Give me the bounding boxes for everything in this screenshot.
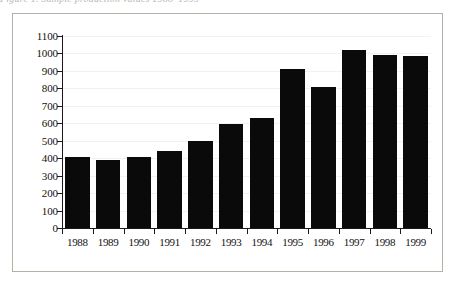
x-axis-tick-label: 1994 xyxy=(247,235,278,251)
bar-slot xyxy=(247,36,278,228)
y-axis-tick-label: 600 xyxy=(20,118,58,129)
bar xyxy=(250,118,274,228)
y-axis-tick-mark xyxy=(57,228,62,229)
y-axis-tick-label: 1100 xyxy=(20,31,58,42)
y-axis-tick-label: 900 xyxy=(20,65,58,76)
x-axis-tick-label: 1997 xyxy=(339,235,370,251)
y-axis-tick-mark xyxy=(57,88,62,89)
x-axis-tick-label: 1999 xyxy=(400,235,431,251)
x-axis-tick-label: 1988 xyxy=(62,235,93,251)
y-axis-tick-mark xyxy=(57,176,62,177)
bar-slot xyxy=(216,36,247,228)
x-axis-tick-mark xyxy=(93,229,94,234)
y-axis-tick-mark xyxy=(57,141,62,142)
bar xyxy=(311,87,335,228)
y-axis-tick-mark xyxy=(57,123,62,124)
bar-slot xyxy=(339,36,370,228)
y-axis-tick-labels: 010020030040050060070080090010001100 xyxy=(20,36,58,228)
x-axis-tick-mark xyxy=(400,229,401,234)
bar-slot xyxy=(124,36,155,228)
y-axis-tick-label: 200 xyxy=(20,188,58,199)
bar xyxy=(157,151,181,228)
x-axis-tick-mark xyxy=(62,229,63,234)
y-axis-tick-label: 100 xyxy=(20,205,58,216)
y-axis-tick-mark xyxy=(57,158,62,159)
bar xyxy=(219,124,243,228)
bar-slot xyxy=(308,36,339,228)
x-axis-tick-label: 1992 xyxy=(185,235,216,251)
y-axis-tick-mark xyxy=(57,36,62,37)
x-axis-tick-mark xyxy=(185,229,186,234)
bar-slot xyxy=(400,36,431,228)
x-axis-tick-label: 1993 xyxy=(216,235,247,251)
x-axis-tick-mark xyxy=(154,229,155,234)
bar xyxy=(188,141,212,228)
y-axis-tick-label: 800 xyxy=(20,83,58,94)
x-axis-tick-label: 1996 xyxy=(308,235,339,251)
x-axis-tick-labels: 1988198919901991199219931994199519961997… xyxy=(62,235,431,251)
y-axis-tick-label: 1000 xyxy=(20,48,58,59)
x-axis-tick-label: 1990 xyxy=(124,235,155,251)
y-axis-tick-mark xyxy=(57,211,62,212)
x-axis-tick-marks xyxy=(62,229,431,234)
bar xyxy=(96,160,120,228)
y-axis-tick-mark xyxy=(57,193,62,194)
x-axis-tick-mark xyxy=(247,229,248,234)
y-axis-tick-label: 0 xyxy=(20,223,58,234)
y-axis-tick-mark xyxy=(57,106,62,107)
figure-caption: Figure 1. Sample production values 1988–… xyxy=(0,0,456,5)
x-axis-tick-label: 1995 xyxy=(277,235,308,251)
bar-slot xyxy=(370,36,401,228)
bar-slot xyxy=(93,36,124,228)
y-axis-tick-mark xyxy=(57,53,62,54)
bar-slot xyxy=(185,36,216,228)
x-axis-tick-mark xyxy=(339,229,340,234)
bar-slot xyxy=(154,36,185,228)
x-axis-tick-mark xyxy=(431,229,432,234)
bar-slot xyxy=(277,36,308,228)
x-axis-tick-label: 1991 xyxy=(154,235,185,251)
bar-series xyxy=(62,36,431,228)
x-axis-tick-mark xyxy=(216,229,217,234)
bar xyxy=(65,157,89,228)
bar xyxy=(342,50,366,228)
y-axis-tick-label: 500 xyxy=(20,135,58,146)
y-axis-tick-label: 300 xyxy=(20,170,58,181)
bar xyxy=(280,69,304,228)
y-axis-tick-label: 700 xyxy=(20,100,58,111)
bar xyxy=(403,56,427,228)
bar-slot xyxy=(62,36,93,228)
bar xyxy=(127,157,151,228)
x-axis-tick-label: 1989 xyxy=(93,235,124,251)
x-axis-tick-mark xyxy=(370,229,371,234)
x-axis-tick-mark xyxy=(277,229,278,234)
bar xyxy=(373,55,397,228)
x-axis-tick-mark xyxy=(308,229,309,234)
x-axis-tick-label: 1998 xyxy=(370,235,401,251)
y-axis-tick-mark xyxy=(57,71,62,72)
y-axis-tick-label: 400 xyxy=(20,153,58,164)
x-axis-tick-mark xyxy=(124,229,125,234)
